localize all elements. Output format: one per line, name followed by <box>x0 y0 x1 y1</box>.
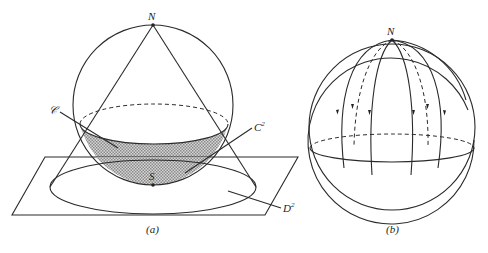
south-pole-label: S <box>149 170 155 182</box>
figure-canvas: N S 𝒞 C2 D2 (a) <box>0 0 488 253</box>
arrow-icon <box>351 104 354 109</box>
cap-boundary-back <box>80 104 228 124</box>
arrow-icon <box>443 110 446 116</box>
arrow-icon <box>368 110 371 115</box>
equator-back <box>310 134 474 148</box>
north-pole-b-label: N <box>386 25 395 37</box>
disc-leader <box>228 191 281 208</box>
figure-b: N (b) <box>308 25 475 236</box>
south-pole-point <box>151 183 155 187</box>
caption-a: (a) <box>146 223 159 236</box>
cap-curve-label: 𝒞 <box>49 104 60 116</box>
caption-b: (b) <box>386 223 399 236</box>
north-pole-label: N <box>147 10 156 22</box>
equator-front <box>310 148 474 162</box>
cap-surface-label: C2 <box>254 120 265 133</box>
north-pole-b-point <box>390 38 394 42</box>
sphere-b-outline <box>308 40 474 224</box>
meridian-outer-right <box>392 40 441 168</box>
meridian-outer-left <box>342 40 392 168</box>
disc-label: D2 <box>282 201 295 214</box>
arrow-icon <box>336 110 339 115</box>
figure-a: N S 𝒞 C2 D2 (a) <box>12 10 298 236</box>
north-pole-point <box>151 23 155 27</box>
meridian-back-left <box>354 40 392 146</box>
